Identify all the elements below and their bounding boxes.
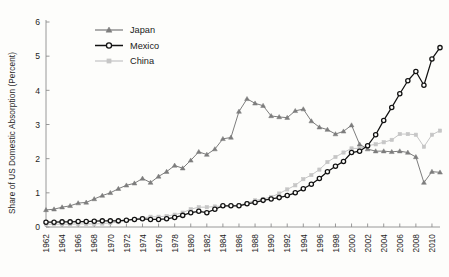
data-point-marker xyxy=(156,217,160,221)
data-point-marker xyxy=(181,213,185,217)
data-point-marker xyxy=(229,135,234,139)
x-tick-label: 1984 xyxy=(218,234,228,253)
x-tick-label: 1988 xyxy=(250,234,260,253)
legend-label-text: Mexico xyxy=(130,41,159,51)
data-point-marker xyxy=(261,198,265,202)
data-point-marker xyxy=(92,219,96,223)
data-point-marker xyxy=(205,206,208,209)
x-tick-label: 1980 xyxy=(186,234,196,253)
x-tick-label: 1998 xyxy=(331,234,341,253)
data-point-marker xyxy=(100,219,104,223)
data-point-marker xyxy=(221,204,225,208)
legend-label-text: Japan xyxy=(130,25,155,35)
data-point-marker xyxy=(52,220,56,224)
legend-item-china[interactable]: China xyxy=(95,56,155,66)
data-point-marker xyxy=(106,43,111,48)
series-line-mexico xyxy=(46,48,440,223)
data-point-marker xyxy=(309,182,313,186)
data-point-marker xyxy=(189,211,193,215)
data-point-marker xyxy=(140,176,145,180)
series-line-japan xyxy=(46,99,440,210)
x-tick-label: 1974 xyxy=(138,234,148,253)
data-point-marker xyxy=(302,178,305,181)
data-point-marker xyxy=(333,164,337,168)
data-point-marker xyxy=(237,204,241,208)
data-point-marker xyxy=(414,69,418,73)
data-point-marker xyxy=(422,83,426,87)
data-point-marker xyxy=(293,191,297,195)
x-tick-label: 2004 xyxy=(379,234,389,253)
data-point-marker xyxy=(357,149,361,153)
data-point-marker xyxy=(148,217,152,221)
data-point-marker xyxy=(245,96,250,100)
data-point-marker xyxy=(382,141,385,144)
data-point-marker xyxy=(76,219,80,223)
series-line-china xyxy=(46,131,440,225)
x-tick-label: 2000 xyxy=(347,234,357,253)
line-chart: Share of US Domestic Absorption (Percent… xyxy=(0,0,449,277)
data-point-marker xyxy=(406,132,409,135)
data-point-marker xyxy=(414,133,417,136)
data-point-marker xyxy=(398,132,401,135)
y-axis-ticks: 0123456 xyxy=(35,17,49,232)
chart-figure: Share of US Domestic Absorption (Percent… xyxy=(0,0,449,277)
data-point-marker xyxy=(294,184,297,187)
data-point-marker xyxy=(398,92,402,96)
y-axis-title: Share of US Domestic Absorption (Percent… xyxy=(8,52,17,214)
data-point-marker xyxy=(422,145,425,148)
data-point-marker xyxy=(60,220,64,224)
x-tick-label: 1992 xyxy=(282,234,292,253)
x-tick-label: 1978 xyxy=(170,234,180,253)
data-point-marker xyxy=(116,219,120,223)
chart-legend: JapanMexicoChina xyxy=(95,25,159,66)
data-point-marker xyxy=(286,188,289,191)
x-tick-label: 1990 xyxy=(266,234,276,253)
legend-item-japan[interactable]: Japan xyxy=(95,25,155,35)
data-point-marker xyxy=(382,118,386,122)
data-point-marker xyxy=(390,138,393,141)
data-point-marker xyxy=(310,173,313,176)
x-tick-label: 2006 xyxy=(395,234,405,253)
axes xyxy=(46,20,440,227)
legend-label-text: China xyxy=(130,56,155,66)
x-tick-label: 1996 xyxy=(315,234,325,253)
data-point-marker xyxy=(196,149,201,153)
data-point-marker xyxy=(390,105,394,109)
data-point-marker xyxy=(205,211,209,215)
x-tick-label: 1964 xyxy=(57,234,67,253)
x-tick-label: 1976 xyxy=(154,234,164,253)
data-point-marker xyxy=(108,219,112,223)
data-point-marker xyxy=(342,151,345,154)
data-point-marker xyxy=(197,209,201,213)
x-tick-label: 1962 xyxy=(41,234,51,253)
y-tick-label: 1 xyxy=(35,188,40,198)
x-tick-label: 1972 xyxy=(122,234,132,253)
data-point-marker xyxy=(156,174,161,178)
data-point-marker xyxy=(413,155,418,159)
data-point-marker xyxy=(132,217,136,221)
x-tick-label: 1994 xyxy=(299,234,309,253)
data-point-marker xyxy=(172,163,177,167)
data-point-marker xyxy=(318,168,321,171)
data-point-marker xyxy=(430,133,433,136)
data-point-marker xyxy=(341,159,345,163)
data-point-marker xyxy=(197,206,200,209)
x-tick-label: 2002 xyxy=(363,234,373,253)
data-series-layer xyxy=(44,46,443,226)
data-point-marker xyxy=(253,101,258,105)
y-tick-label: 3 xyxy=(35,120,40,130)
x-tick-label: 2008 xyxy=(411,234,421,253)
data-point-marker xyxy=(317,176,321,180)
data-point-marker xyxy=(301,187,305,191)
y-tick-label: 2 xyxy=(35,154,40,164)
legend-item-mexico[interactable]: Mexico xyxy=(95,41,159,51)
data-point-marker xyxy=(253,200,257,204)
data-point-marker xyxy=(269,197,273,201)
data-point-marker xyxy=(173,215,177,219)
data-point-marker xyxy=(357,142,362,146)
data-point-marker xyxy=(430,57,434,61)
data-point-marker xyxy=(325,170,329,174)
data-point-marker xyxy=(326,160,329,163)
data-point-marker xyxy=(366,144,370,148)
data-point-marker xyxy=(438,46,442,50)
